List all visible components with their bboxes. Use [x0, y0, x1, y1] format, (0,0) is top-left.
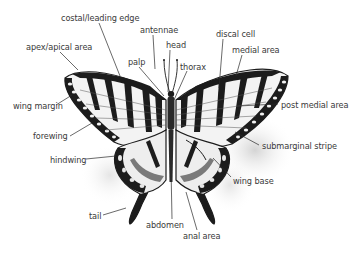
- label-medial-area: medial area: [232, 45, 280, 55]
- leader-costal: [99, 23, 120, 76]
- label-thorax: thorax: [180, 62, 206, 72]
- butterfly-anatomy-diagram: costal/leading edge antennae head discal…: [0, 0, 361, 255]
- label-apex-apical-area: apex/apical area: [26, 42, 92, 52]
- butterfly-illustration: [0, 0, 361, 255]
- leader-tail: [103, 208, 126, 215]
- leader-antennae: [153, 35, 155, 69]
- label-palp: palp: [128, 57, 145, 67]
- label-hindwing: hindwing: [50, 155, 86, 165]
- left-forewing: [65, 72, 166, 146]
- label-head: head: [166, 40, 186, 50]
- label-discal-cell: discal cell: [216, 29, 255, 39]
- leader-apex: [60, 52, 78, 70]
- label-costal-leading-edge: costal/leading edge: [61, 13, 139, 23]
- label-submarginal-stripe: submarginal stripe: [262, 141, 337, 151]
- label-anal-area: anal area: [183, 231, 220, 241]
- label-antennae: antennae: [140, 25, 178, 35]
- label-wing-margin: wing margin: [13, 101, 63, 111]
- label-tail: tail: [89, 211, 101, 221]
- label-forewing: forewing: [33, 131, 68, 141]
- leader-head: [168, 50, 170, 92]
- label-wing-base: wing base: [233, 176, 274, 186]
- label-abdomen: abdomen: [146, 220, 184, 230]
- label-post-medial-area: post medial area: [281, 100, 348, 110]
- leader-anal: [186, 192, 197, 230]
- leader-forewing: [70, 123, 92, 136]
- thorax-shape: [168, 96, 175, 130]
